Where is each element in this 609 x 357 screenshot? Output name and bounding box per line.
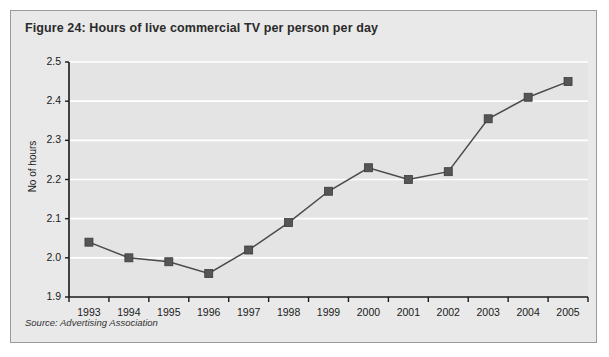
y-tick-label: 2.2: [27, 173, 61, 185]
data-point-marker: [165, 258, 173, 266]
data-point-marker: [85, 238, 93, 246]
data-point-marker: [285, 219, 293, 227]
data-point-marker: [325, 187, 333, 195]
x-tick-label: 2005: [544, 306, 592, 318]
y-tick-label: 2.5: [27, 55, 61, 67]
data-point-marker: [404, 176, 412, 184]
y-tick-label: 2.4: [27, 94, 61, 106]
line-chart-svg: [11, 11, 598, 344]
chart-plot-area: No of hours 2.52.42.32.22.12.01.91993199…: [11, 11, 598, 344]
source-note: Source: Advertising Association: [25, 317, 158, 328]
data-point-marker: [364, 164, 372, 172]
data-point-marker: [205, 270, 213, 278]
data-point-marker: [564, 78, 572, 86]
data-point-marker: [245, 246, 253, 254]
data-point-marker: [444, 168, 452, 176]
data-point-marker: [125, 254, 133, 262]
data-point-marker: [484, 115, 492, 123]
y-tick-label: 2.1: [27, 212, 61, 224]
data-point-marker: [524, 93, 532, 101]
figure-panel: Figure 24: Hours of live commercial TV p…: [10, 10, 597, 343]
y-tick-label: 2.3: [27, 133, 61, 145]
y-tick-label: 2.0: [27, 251, 61, 263]
y-tick-label: 1.9: [27, 290, 61, 302]
